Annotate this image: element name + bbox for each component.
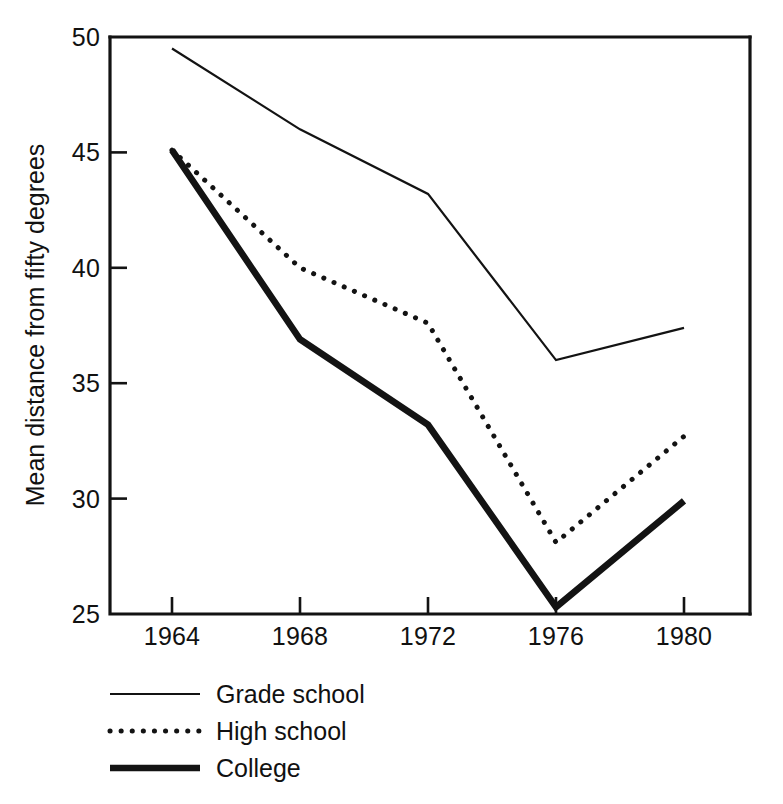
y-axis-title: Mean distance from fifty degrees (21, 144, 49, 507)
x-tick-label-1976: 1976 (528, 622, 584, 650)
y-tick-label-45: 45 (72, 138, 100, 166)
y-tick-label-30: 30 (72, 485, 100, 513)
y-tick-label-50: 50 (72, 23, 100, 51)
series-line-college (172, 150, 684, 607)
x-tick-label-1964: 1964 (144, 622, 200, 650)
line-chart: 50 45 40 35 30 25 1964 1968 1972 1976 19… (0, 0, 783, 804)
x-tick-label-1972: 1972 (400, 622, 456, 650)
series-line-grade-school (172, 49, 684, 361)
chart-figure: 50 45 40 35 30 25 1964 1968 1972 1976 19… (0, 0, 783, 804)
y-tick-label-35: 35 (72, 369, 100, 397)
series-group (172, 49, 684, 608)
x-tick-label-1968: 1968 (272, 622, 328, 650)
y-tick-label-25: 25 (72, 600, 100, 628)
x-tick-labels: 1964 1968 1972 1976 1980 (144, 622, 712, 650)
y-tick-labels: 50 45 40 35 30 25 (72, 23, 100, 628)
x-tick-label-1980: 1980 (656, 622, 712, 650)
legend-label-high-school: High school (216, 717, 347, 745)
legend: Grade school High school College (110, 680, 365, 782)
legend-label-grade-school: Grade school (216, 680, 365, 708)
y-tick-marks (110, 152, 127, 498)
x-tick-marks (172, 597, 684, 614)
y-tick-label-40: 40 (72, 254, 100, 282)
legend-label-college: College (216, 754, 301, 782)
